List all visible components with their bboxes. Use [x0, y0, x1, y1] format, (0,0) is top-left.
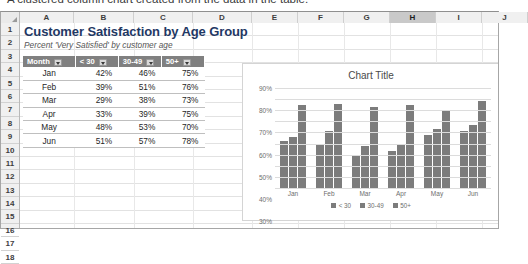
cell-month[interactable]: May	[23, 121, 75, 134]
row-header-7[interactable]: 7	[1, 103, 19, 116]
data-table: Month < 30 30-49 50+ Jan42%46%75%Feb39%	[23, 56, 205, 148]
chart-legend-item[interactable]: 50+	[393, 202, 411, 209]
select-all-corner[interactable]	[1, 12, 20, 23]
chart-bar[interactable]	[325, 131, 333, 188]
table-row[interactable]: Mar29%38%73%	[23, 94, 205, 107]
table-row[interactable]: Apr33%39%75%	[23, 107, 205, 120]
column-header-f[interactable]: F	[298, 12, 344, 23]
chart-y-tick: 60%	[246, 151, 272, 158]
chart-legend-item[interactable]: 30-49	[360, 202, 384, 209]
row-header-2[interactable]: 2	[1, 36, 19, 49]
row-header-1[interactable]: 1	[1, 23, 19, 36]
chart-bar[interactable]	[334, 104, 342, 188]
chart-bar[interactable]	[298, 105, 306, 188]
cell-month[interactable]: Apr	[23, 107, 75, 120]
cell-m3049[interactable]: 39%	[118, 107, 161, 120]
table-row[interactable]: Jan42%46%75%	[23, 67, 205, 80]
chart-object[interactable]: Chart Title 0%10%20%30%40%50%60%70%80%90…	[242, 63, 498, 221]
cell-p50[interactable]: 75%	[161, 107, 204, 120]
cell-m3049[interactable]: 57%	[118, 134, 161, 147]
cell-p50[interactable]: 70%	[161, 121, 204, 134]
column-header-h[interactable]: H	[390, 12, 436, 23]
cell-u30[interactable]: 42%	[75, 67, 118, 80]
row-header-10[interactable]: 10	[1, 144, 19, 157]
chart-legend-item[interactable]: < 30	[331, 202, 351, 209]
chart-bar[interactable]	[460, 131, 468, 188]
legend-swatch-icon	[360, 203, 365, 208]
chart-x-label: Jan	[275, 190, 311, 197]
filter-dropdown-icon[interactable]	[146, 59, 154, 66]
table-row[interactable]: May48%53%70%	[23, 121, 205, 134]
cell-p50[interactable]: 78%	[161, 134, 204, 147]
column-header-i[interactable]: I	[436, 12, 482, 23]
chart-bar[interactable]	[361, 146, 369, 188]
chart-bar-groups	[275, 88, 491, 188]
cell-u30[interactable]: 29%	[75, 94, 118, 107]
column-header-d[interactable]: D	[193, 12, 252, 23]
row-header-3[interactable]: 3	[1, 50, 19, 63]
row-header-5[interactable]: 5	[1, 77, 19, 90]
table-header-30to49-label: 30-49	[123, 57, 142, 66]
cell-month[interactable]: Feb	[23, 80, 75, 93]
column-header-row: ABCDEFGHIJ	[1, 12, 498, 23]
chart-group-may	[419, 88, 455, 188]
chart-gridline: 30%	[275, 155, 491, 156]
row-header-17[interactable]: 17	[1, 237, 19, 250]
cell-month[interactable]: Jan	[23, 67, 75, 80]
chart-bar[interactable]	[352, 156, 360, 188]
cell-p50[interactable]: 73%	[161, 94, 204, 107]
row-header-14[interactable]: 14	[1, 197, 19, 210]
cell-month[interactable]: Jun	[23, 134, 75, 147]
row-header-11[interactable]: 11	[1, 157, 19, 170]
cell-u30[interactable]: 48%	[75, 121, 118, 134]
row-header-4[interactable]: 4	[1, 63, 19, 76]
chart-bar[interactable]	[469, 125, 477, 188]
cell-m3049[interactable]: 53%	[118, 121, 161, 134]
row-header-6[interactable]: 6	[1, 90, 19, 103]
column-header-g[interactable]: G	[344, 12, 390, 23]
chart-legend: < 3030-4950+	[243, 202, 498, 209]
chart-bar[interactable]	[478, 101, 486, 188]
row-header-18[interactable]: 18	[1, 251, 19, 264]
column-header-b[interactable]: B	[74, 12, 134, 23]
cell-m3049[interactable]: 46%	[118, 67, 161, 80]
chart-bar[interactable]	[370, 107, 378, 188]
row-header-15[interactable]: 15	[1, 210, 19, 223]
table-header-50plus[interactable]: 50+	[161, 56, 204, 67]
column-header-j[interactable]: J	[482, 12, 528, 23]
cell-u30[interactable]: 33%	[75, 107, 118, 120]
chart-bar[interactable]	[280, 141, 288, 188]
cell-u30[interactable]: 39%	[75, 80, 118, 93]
table-header-under30[interactable]: < 30	[75, 56, 118, 67]
cell-m3049[interactable]: 51%	[118, 80, 161, 93]
table-header-month[interactable]: Month	[23, 56, 75, 67]
chart-bar[interactable]	[433, 129, 441, 188]
chart-bar[interactable]	[388, 151, 396, 188]
chart-x-label: Mar	[347, 190, 383, 197]
cell-month[interactable]: Mar	[23, 94, 75, 107]
column-header-c[interactable]: C	[134, 12, 193, 23]
cell-p50[interactable]: 76%	[161, 80, 204, 93]
row-header-13[interactable]: 13	[1, 184, 19, 197]
chart-bar[interactable]	[289, 137, 297, 188]
table-header-30to49[interactable]: 30-49	[118, 56, 161, 67]
column-header-e[interactable]: E	[252, 12, 298, 23]
row-header-8[interactable]: 8	[1, 117, 19, 130]
chart-bar[interactable]	[406, 105, 414, 188]
row-header-16[interactable]: 16	[1, 224, 19, 237]
table-header-under30-label: < 30	[80, 57, 95, 66]
filter-dropdown-icon[interactable]	[183, 59, 191, 66]
row-header-12[interactable]: 12	[1, 170, 19, 183]
cell-u30[interactable]: 51%	[75, 134, 118, 147]
cell-m3049[interactable]: 38%	[118, 94, 161, 107]
row-header-9[interactable]: 9	[1, 130, 19, 143]
table-row[interactable]: Jun51%57%78%	[23, 134, 205, 147]
filter-dropdown-icon[interactable]	[99, 59, 107, 66]
table-row[interactable]: Feb39%51%76%	[23, 80, 205, 93]
filter-dropdown-icon[interactable]	[54, 59, 62, 66]
chart-plot-area: 0%10%20%30%40%50%60%70%80%90%	[275, 88, 491, 188]
legend-swatch-icon	[393, 203, 398, 208]
column-header-a[interactable]: A	[20, 12, 74, 23]
cell-p50[interactable]: 75%	[161, 67, 204, 80]
